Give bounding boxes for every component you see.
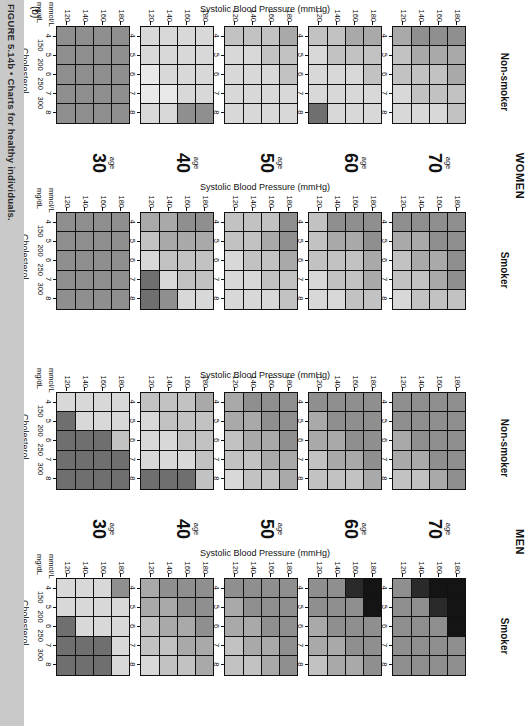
risk-cell	[447, 598, 465, 617]
bp-tick	[168, 21, 169, 25]
risk-grid-men-smoker-age50	[224, 578, 298, 676]
risk-cell	[279, 451, 297, 470]
bp-tick	[150, 207, 151, 211]
chol-tick	[305, 55, 309, 56]
risk-cell	[429, 251, 447, 270]
risk-cell	[411, 232, 429, 251]
bp-axis-ruler: 180160140120	[310, 189, 382, 211]
risk-cell	[429, 46, 447, 65]
risk-cell	[159, 271, 177, 290]
risk-cell	[309, 393, 327, 412]
chol-tick	[305, 421, 309, 422]
bp-tick	[150, 21, 151, 25]
chol-tick	[389, 298, 393, 299]
bp-tick-label: 120	[231, 195, 240, 208]
risk-cell	[225, 598, 243, 617]
risk-cell	[177, 579, 195, 598]
risk-cell	[75, 579, 93, 598]
risk-cell	[243, 27, 261, 46]
cholesterol-mgdl-ruler: 150200250300	[29, 212, 45, 308]
age-word: age	[108, 506, 116, 552]
risk-cell	[279, 579, 297, 598]
bp-tick	[318, 21, 319, 25]
risk-cell	[327, 232, 345, 251]
age-marker-women-30: age30	[90, 140, 116, 186]
risk-cell	[111, 65, 129, 84]
risk-grid-women-smoker-age50	[224, 212, 298, 310]
risk-cell	[57, 470, 75, 489]
risk-cell	[309, 65, 327, 84]
risk-cell	[75, 412, 93, 431]
risk-cell	[177, 104, 195, 123]
chol-tick	[53, 440, 57, 441]
risk-cell	[57, 656, 75, 675]
bp-tick-label: 160	[99, 195, 108, 208]
risk-cell	[309, 213, 327, 232]
bp-axis-ruler: 180160140120	[226, 189, 298, 211]
bp-tick-label: 120	[399, 195, 408, 208]
bp-tick-label: 120	[63, 195, 72, 208]
bp-tick	[186, 573, 187, 577]
risk-cell	[261, 451, 279, 470]
chol-tick	[221, 421, 225, 422]
risk-cell	[111, 412, 129, 431]
bp-tick-label: 120	[147, 561, 156, 574]
chol-tick	[137, 421, 141, 422]
risk-cell	[447, 213, 465, 232]
age-marker-men-30: age30	[90, 506, 116, 552]
risk-cell	[309, 656, 327, 675]
chol-tick	[221, 645, 225, 646]
chol-mgdl-tick-label: 150	[36, 591, 45, 604]
bp-tick-label: 140	[165, 195, 174, 208]
risk-cell	[261, 617, 279, 636]
risk-cell	[327, 85, 345, 104]
bp-tick-label: 140	[417, 375, 426, 388]
bp-tick	[66, 207, 67, 211]
risk-grid-women-nonsmoker-age30	[56, 26, 130, 124]
y-axis-title: Systolic Blood Pressure (mmHg)	[200, 182, 330, 192]
chol-mmol-tick-label: 8	[44, 476, 53, 480]
bp-tick	[402, 387, 403, 391]
risk-cell	[309, 27, 327, 46]
chol-tick	[53, 298, 57, 299]
bp-tick-label: 180	[369, 561, 378, 574]
risk-cell	[279, 431, 297, 450]
risk-cell	[279, 470, 297, 489]
risk-cell	[327, 46, 345, 65]
risk-cell	[345, 579, 363, 598]
risk-cell	[159, 637, 177, 656]
risk-cell	[243, 104, 261, 123]
bp-tick	[270, 387, 271, 391]
risk-cell	[195, 46, 213, 65]
bp-tick	[120, 21, 121, 25]
bp-tick	[270, 207, 271, 211]
risk-cell	[363, 251, 381, 270]
risk-cell	[279, 65, 297, 84]
risk-cell	[225, 251, 243, 270]
bp-tick-label: 120	[63, 561, 72, 574]
risk-cell	[393, 271, 411, 290]
chol-tick	[389, 440, 393, 441]
risk-cell	[195, 232, 213, 251]
risk-cell	[393, 470, 411, 489]
risk-cell	[93, 232, 111, 251]
chol-tick	[137, 260, 141, 261]
risk-cell	[195, 104, 213, 123]
risk-cell	[243, 290, 261, 309]
risk-cell	[195, 412, 213, 431]
bp-tick-label: 180	[369, 195, 378, 208]
bp-tick-label: 160	[435, 195, 444, 208]
risk-cell	[363, 232, 381, 251]
bp-tick-label: 140	[81, 9, 90, 22]
risk-cell	[261, 579, 279, 598]
chol-tick	[137, 588, 141, 589]
risk-cell	[363, 579, 381, 598]
chol-mmol-tick-label: 4	[44, 220, 53, 224]
risk-cell	[429, 85, 447, 104]
risk-cell	[225, 213, 243, 232]
risk-cell	[141, 656, 159, 675]
bp-tick	[102, 387, 103, 391]
risk-cell	[177, 46, 195, 65]
risk-cell	[411, 451, 429, 470]
bp-tick	[318, 207, 319, 211]
